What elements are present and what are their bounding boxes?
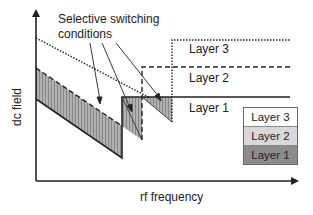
annotation-line-1: Selective switching	[58, 12, 159, 26]
y-axis-label: dc field	[10, 88, 24, 126]
legend-item-layer1: Layer 1	[244, 146, 297, 164]
region-label-layer3: Layer 3	[189, 42, 229, 56]
x-axis-arrow-icon	[291, 177, 299, 185]
region-label-layer1: Layer 1	[189, 101, 229, 115]
legend: Layer 3 Layer 2 Layer 1	[243, 107, 298, 165]
switching-region-1	[36, 68, 122, 158]
region-label-layer2: Layer 2	[189, 71, 229, 85]
legend-item-layer3: Layer 3	[244, 108, 297, 127]
x-axis-label: rf frequency	[140, 190, 203, 204]
y-axis-arrow-icon	[32, 9, 40, 17]
legend-item-layer2: Layer 2	[244, 127, 297, 146]
annotation-line-2: conditions	[58, 27, 112, 41]
